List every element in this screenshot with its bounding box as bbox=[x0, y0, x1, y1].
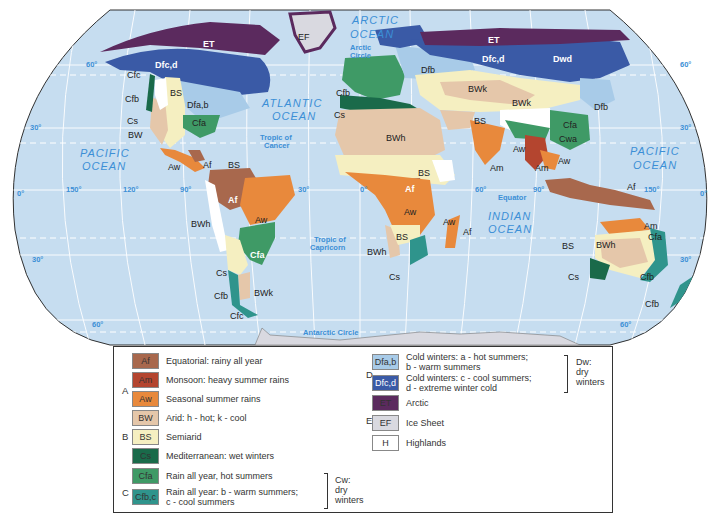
legend-text-cfa: Rain all year, hot summers bbox=[166, 471, 273, 481]
deg-30s-west: 30° bbox=[32, 255, 43, 264]
label-sa-bwh: BWh bbox=[191, 219, 211, 229]
label-eu-dfb: Dfb bbox=[421, 65, 435, 75]
label-indian-ocean-1: INDIAN bbox=[488, 210, 531, 222]
swatch-cfa: Cfa bbox=[132, 468, 159, 484]
note-cw-l2: dry bbox=[335, 485, 348, 495]
label-na-cfc: Cfc bbox=[127, 70, 141, 80]
label-pacific-ocean-west-1: PACIFIC bbox=[80, 147, 130, 159]
label-sa-cfa: Cfa bbox=[250, 250, 265, 260]
deg-120w: 120° bbox=[123, 185, 139, 194]
label-af-bwh: BWh bbox=[386, 133, 406, 143]
legend-text-af: Equatorial: rainy all year bbox=[166, 356, 263, 366]
note-dw-l1: Dw: bbox=[576, 357, 592, 367]
legend-text-et: Arctic bbox=[406, 398, 429, 408]
label-eu-cfb: Cfb bbox=[336, 88, 350, 98]
legend-group-a: A bbox=[122, 385, 128, 396]
deg-0-west: 0° bbox=[17, 189, 24, 198]
label-pacific-ocean-west-2: OCEAN bbox=[82, 160, 126, 172]
swatch-aw: Aw bbox=[132, 391, 159, 407]
label-au-bs: BS bbox=[562, 241, 574, 251]
deg-30n-west: 30° bbox=[30, 123, 41, 132]
label-greenland-ef: EF bbox=[298, 32, 310, 42]
deg-30n-east: 30° bbox=[680, 123, 691, 132]
label-sa-bwk: BWk bbox=[254, 288, 273, 298]
legend-text-h: Highlands bbox=[406, 438, 446, 448]
legend-text-dfab-line1: Cold winters: a - hot summers; bbox=[406, 352, 528, 362]
deg-90e: 90° bbox=[533, 185, 544, 194]
swatch-am: Am bbox=[132, 372, 159, 388]
legend-text-dfcd-line1: Cold winters: c - cool summers; bbox=[406, 373, 532, 383]
label-na-dfcd: Dfc,d bbox=[155, 60, 178, 70]
label-af-af: Af bbox=[405, 184, 415, 194]
note-dw: Dw: dry winters bbox=[576, 357, 605, 387]
swatch-h: H bbox=[372, 435, 399, 451]
legend-text-cfbc: Rain all year: b - warm summers; c - coo… bbox=[166, 487, 298, 507]
legend-item-bw: BW Arid: h - hot; k - cool bbox=[132, 410, 247, 426]
legend-text-dfcd: Cold winters: c - cool summers; d - extr… bbox=[406, 373, 532, 393]
label-nz-cfb: Cfb bbox=[645, 299, 659, 309]
legend-text-dfab: Cold winters: a - hot summers; b - warm … bbox=[406, 352, 528, 372]
swatch-dfab: Dfa,b bbox=[372, 354, 399, 370]
legend-item-dfcd: Dfc,d Cold winters: c - cool summers; d … bbox=[372, 373, 532, 393]
swatch-ef: EF bbox=[372, 415, 399, 431]
label-au-cfa: Cfa bbox=[648, 232, 662, 242]
deg-0-east: 0° bbox=[700, 189, 707, 198]
label-tropic-of-cancer-2: Cancer bbox=[264, 141, 290, 150]
swatch-et: ET bbox=[372, 395, 399, 411]
label-na-cfa: Cfa bbox=[192, 118, 206, 128]
deg-60n-east: 60° bbox=[680, 60, 691, 69]
deg-150w: 150° bbox=[66, 185, 82, 194]
legend-item-cs: Cs Mediterranean: wet winters bbox=[132, 448, 274, 464]
label-mg-af: Af bbox=[463, 227, 472, 237]
label-as-cfa: Cfa bbox=[563, 120, 577, 130]
label-as-bs: BS bbox=[474, 116, 486, 126]
label-ca-af: Af bbox=[203, 160, 212, 170]
label-as-aw1: Aw bbox=[513, 144, 526, 154]
label-as-dfcd: Dfc,d bbox=[482, 54, 505, 64]
swatch-cs: Cs bbox=[132, 448, 159, 464]
label-tropic-of-capricorn-2: Capricorn bbox=[310, 243, 346, 252]
legend-text-aw: Seasonal summer rains bbox=[166, 394, 261, 404]
note-cw-l1: Cw: bbox=[335, 475, 351, 485]
label-as-dwd: Dwd bbox=[553, 54, 572, 64]
label-arctic-ocean-1: ARCTIC bbox=[351, 14, 399, 26]
label-au-cs: Cs bbox=[568, 272, 579, 282]
label-indian-ocean-2: OCEAN bbox=[488, 223, 532, 235]
label-af-aw: Aw bbox=[404, 207, 417, 217]
deg-150e: 150° bbox=[644, 185, 660, 194]
deg-30s-east: 30° bbox=[680, 255, 691, 264]
legend-item-h: H Highlands bbox=[372, 435, 446, 451]
legend-text-dfcd-line2: d - extreme winter cold bbox=[406, 383, 497, 393]
legend-text-cfbc-line2: c - cool summers bbox=[166, 497, 235, 507]
label-as-am1: Am bbox=[490, 163, 504, 173]
label-arctic-circle-2: Circle bbox=[350, 51, 371, 60]
label-na-bs: BS bbox=[170, 88, 182, 98]
swatch-af: Af bbox=[132, 353, 159, 369]
legend-text-dfab-line2: b - warm summers bbox=[406, 362, 481, 372]
deg-60e: 60° bbox=[475, 185, 486, 194]
label-as-cwa: Cwa bbox=[559, 134, 577, 144]
note-cw-l3: winters bbox=[335, 495, 364, 505]
legend-item-ef: EF Ice Sheet bbox=[372, 415, 444, 431]
legend-item-aw: Aw Seasonal summer rains bbox=[132, 391, 261, 407]
label-na-dfab: Dfa,b bbox=[187, 100, 209, 110]
swatch-bs: BS bbox=[132, 429, 159, 445]
label-as-bwk2: BWk bbox=[512, 98, 531, 108]
legend-group-c: C bbox=[122, 487, 129, 498]
legend-item-cfa: Cfa Rain all year, hot summers bbox=[132, 468, 273, 484]
label-sa-cfb: Cfb bbox=[214, 291, 228, 301]
legend-item-am: Am Monsoon: heavy summer rains bbox=[132, 372, 289, 388]
legend-group-b: B bbox=[122, 431, 128, 442]
legend-item-cfbc: Cfb,c Rain all year: b - warm summers; c… bbox=[132, 487, 298, 507]
label-equator: Equator bbox=[498, 193, 526, 202]
deg-90w: 90° bbox=[180, 185, 191, 194]
region-sa-bwk bbox=[238, 272, 250, 300]
brace-dw bbox=[564, 355, 568, 393]
label-af-bs2: BS bbox=[396, 232, 408, 242]
label-as-am2: Am bbox=[535, 163, 549, 173]
label-as-et: ET bbox=[488, 35, 500, 45]
legend-text-am: Monsoon: heavy summer rains bbox=[166, 375, 289, 385]
label-atlantic-ocean-2: OCEAN bbox=[272, 110, 316, 122]
deg-30w: 30° bbox=[298, 185, 309, 194]
label-na-cs: Cs bbox=[127, 116, 138, 126]
